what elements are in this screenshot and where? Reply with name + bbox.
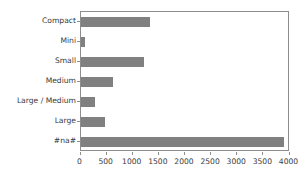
x-tick-mark [132,152,133,155]
bar-row [81,132,288,152]
x-tick-mark [236,152,237,155]
x-tick-label: 2000 [174,157,193,166]
y-tick-label: Mini [0,37,76,45]
bar-large-medium [81,97,95,107]
bars-layer [81,12,288,150]
y-tick-label: Large / Medium [0,97,76,105]
x-tick-mark [289,152,290,155]
x-tick-label: 0 [77,157,82,166]
bar-row [81,12,288,32]
x-tick-label: 2500 [200,157,219,166]
bar-row [81,32,288,52]
bar-chart-figure: CompactMiniSmallMediumLarge / MediumLarg… [0,0,303,173]
bar-na [81,137,284,147]
x-tick-label: 3000 [227,157,246,166]
bar-large [81,117,105,127]
x-tick-mark [184,152,185,155]
x-tick-label: 500 [98,157,113,166]
x-tick-label: 4000 [279,157,298,166]
x-tick-mark [80,152,81,155]
y-tick-label: #na# [0,137,76,145]
plot-area [80,11,289,151]
bar-mini [81,37,86,47]
y-axis: CompactMiniSmallMediumLarge / MediumLarg… [0,11,76,151]
bar-row [81,72,288,92]
bar-compact [81,17,150,27]
bar-row [81,52,288,72]
y-tick-label: Compact [0,17,76,25]
x-axis: 05001000150020002500300035004000 [0,152,303,173]
bar-row [81,92,288,112]
x-tick-mark [262,152,263,155]
x-tick-mark [158,152,159,155]
y-tick-label: Large [0,117,76,125]
x-tick-label: 1000 [122,157,141,166]
bar-small [81,57,144,67]
x-tick-mark [210,152,211,155]
bar-medium [81,77,113,87]
x-tick-label: 1500 [148,157,167,166]
bar-row [81,112,288,132]
y-tick-label: Small [0,57,76,65]
x-tick-label: 3500 [253,157,272,166]
y-tick-label: Medium [0,77,76,85]
x-tick-mark [106,152,107,155]
